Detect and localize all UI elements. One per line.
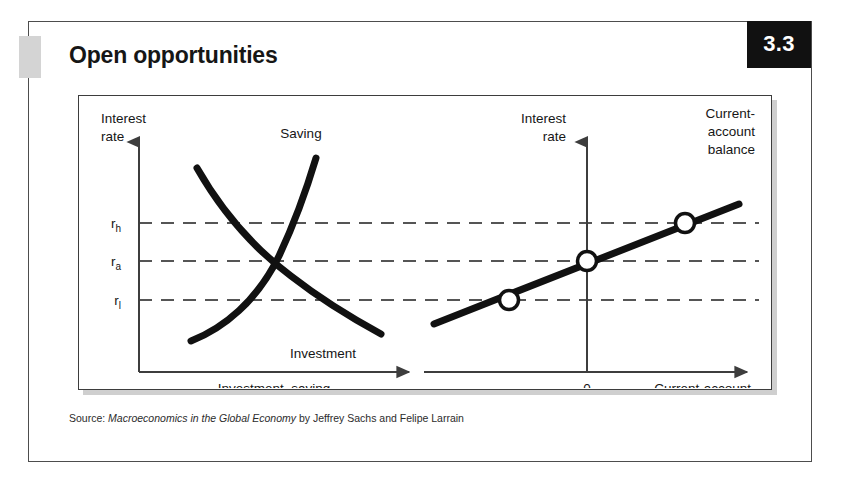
- source-prefix: Source:: [69, 412, 108, 424]
- page-title: Open opportunities: [69, 42, 278, 69]
- investment-curve: [197, 168, 381, 334]
- figure-card: Open opportunities 3.3: [28, 21, 812, 462]
- source-suffix: by Jeffrey Sachs and Felipe Larrain: [296, 412, 464, 424]
- tick-label-r-a: ra: [111, 254, 122, 272]
- left-x-axis-label: Investment, saving: [218, 381, 331, 388]
- marker-r-a: [578, 252, 597, 271]
- right-curve-label-line2: account: [708, 124, 756, 139]
- right-y-axis-label-line2: rate: [543, 129, 566, 144]
- right-curve-label-line1: Current-: [705, 106, 755, 121]
- right-curve-label-line3: balance: [708, 142, 755, 157]
- left-rate-ticks: rh ra rl: [111, 216, 122, 311]
- right-origin-label: 0: [583, 381, 591, 388]
- source-caption: Source: Macroeconomics in the Global Eco…: [69, 412, 464, 424]
- charts-svg: Interest rate Investment, saving rh ra r…: [79, 96, 770, 388]
- plot-panel: Interest rate Investment, saving rh ra r…: [78, 95, 772, 390]
- left-y-axis-label-line2: rate: [101, 129, 124, 144]
- marker-r-h: [676, 214, 695, 233]
- left-accent-tab: [19, 36, 41, 78]
- left-chart: Interest rate Investment, saving rh ra r…: [101, 111, 409, 388]
- saving-curve-label: Saving: [280, 126, 321, 141]
- source-title: Macroeconomics in the Global Economy: [108, 412, 296, 424]
- investment-curve-label: Investment: [290, 346, 356, 361]
- left-y-axis-label-line1: Interest: [101, 111, 146, 126]
- tick-label-r-l: rl: [114, 293, 121, 311]
- right-x-axis-label-line1: Current-account: [654, 381, 751, 388]
- marker-r-l: [500, 291, 519, 310]
- right-y-axis-label-line1: Interest: [521, 111, 566, 126]
- tick-label-r-h: rh: [111, 216, 121, 234]
- right-chart: Interest rate 0 Current-account balance …: [424, 106, 755, 388]
- figure-number-badge: 3.3: [747, 21, 811, 68]
